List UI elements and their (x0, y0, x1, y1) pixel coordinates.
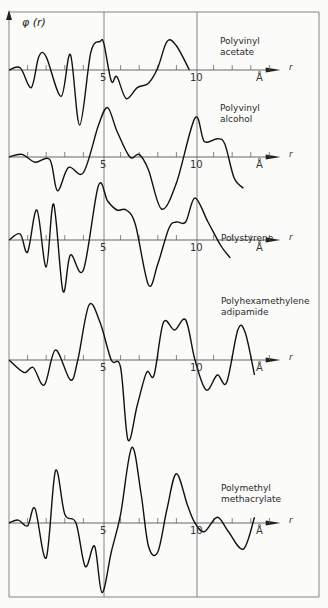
x-tick-label-5: 5 (100, 362, 106, 373)
x-tick-label-5: 5 (100, 159, 106, 170)
y-axis-arrow-icon (6, 10, 12, 20)
series-label-polyvinyl-alcohol: Polyvinylalcohol (220, 103, 260, 125)
x-tick-label-5: 5 (100, 242, 106, 253)
x-axis-arrow-icon (266, 521, 281, 526)
x-tick-label-5: 5 (100, 72, 106, 83)
x-tick-label-10: 10 (190, 525, 203, 536)
x-axis-label: r (289, 352, 293, 362)
x-unit-label: Å (256, 72, 263, 83)
series-label-polymethyl-methacrylate: Polymethylmethacrylate (221, 483, 281, 505)
x-axis-label: r (289, 62, 293, 72)
curve-polyhexamethylene-adipamide (9, 304, 255, 441)
series-label-polyhexamethylene-adipamide: Polyhexamethyleneadipamide (221, 296, 310, 318)
y-axis-label: φ (r) (22, 16, 46, 29)
series-label-polystyrene: Polystyrene (221, 233, 273, 244)
x-tick-label-10: 10 (190, 362, 203, 373)
x-tick-label-5: 5 (100, 525, 106, 536)
x-axis-label: r (289, 232, 293, 242)
x-unit-label: Å (256, 362, 263, 373)
x-tick-label-10: 10 (190, 159, 203, 170)
x-tick-label-10: 10 (190, 72, 203, 83)
x-unit-label: Å (256, 525, 263, 536)
x-tick-label-10: 10 (190, 242, 203, 253)
x-axis-label: r (289, 149, 293, 159)
x-axis-arrow-icon (266, 155, 281, 160)
x-unit-label: Å (256, 242, 263, 253)
x-axis-label: r (289, 515, 293, 525)
x-unit-label: Å (256, 159, 263, 170)
curve-polyvinyl-alcohol (9, 108, 243, 210)
series-label-polyvinyl-acetate: Polyvinylacetate (220, 36, 260, 58)
x-axis-arrow-icon (266, 68, 281, 73)
x-axis-arrow-icon (266, 358, 281, 363)
